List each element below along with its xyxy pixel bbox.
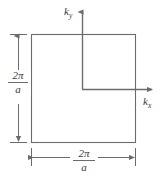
kx-axis-label: kx [143, 96, 151, 110]
height-dimension-label: 2π a [5, 70, 31, 95]
width-dimension-denominator: a [70, 161, 98, 173]
height-dimension-numerator: 2π [5, 70, 31, 82]
ky-axis-label: ky [64, 6, 72, 20]
brillouin-zone-square [32, 35, 136, 143]
width-dimension-numerator: 2π [70, 148, 98, 160]
ky-axis-label-subscript: y [69, 11, 72, 20]
brillouin-zone-figure: ky kx 2π a 2π a [0, 0, 164, 180]
kx-axis-label-subscript: x [148, 101, 151, 110]
height-dimension-denominator: a [5, 83, 31, 95]
width-dimension-label: 2π a [70, 148, 98, 173]
